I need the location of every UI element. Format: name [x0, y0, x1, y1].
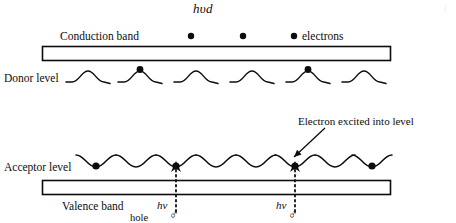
conduction-band-rect [43, 47, 391, 61]
photon-energy-label: hν [157, 200, 167, 211]
transition-arrow-head [290, 161, 300, 172]
acceptor-electron-dot [368, 162, 375, 169]
hole-symbol: ♂ [288, 208, 298, 221]
semiconductor-band-diagram: hυd ( Conduction band electrons Donor le… [0, 0, 456, 223]
title-formula: hυd [193, 2, 213, 15]
acceptor-level-label: Acceptor level [4, 162, 71, 174]
donor-level-bump [342, 71, 386, 84]
hole-label: hole [130, 213, 148, 223]
donor-level-bump [66, 71, 110, 84]
electrons-label: electrons [302, 31, 344, 43]
acceptor-electron-dot [172, 162, 179, 169]
donor-level-bump [286, 71, 330, 84]
annotation-arrow-head [294, 150, 302, 157]
acceptor-level-dip [352, 155, 392, 167]
conduction-electron-dot [188, 33, 194, 39]
valence-band-rect [43, 181, 391, 195]
hole-symbol: ♂ [169, 208, 179, 221]
conduction-electron-dot [291, 33, 297, 39]
conduction-electron-dot [240, 33, 246, 39]
acceptor-level-dip [236, 155, 276, 167]
acceptor-electron-dot [291, 162, 298, 169]
annotation-arrow-shaft [294, 128, 325, 157]
donor-electron-dot [137, 66, 144, 73]
donor-level-bump [118, 71, 162, 84]
donor-level-label: Donor level [4, 73, 59, 85]
acceptor-level-dip [156, 155, 196, 167]
conduction-band-label: Conduction band [60, 31, 139, 43]
valence-band-label: Valence band [62, 201, 124, 213]
acceptor-level-dip [116, 155, 156, 167]
electron-excited-annotation: Electron excited into level [298, 116, 414, 127]
donor-level-bump [230, 71, 274, 84]
donor-level-bump [174, 71, 218, 84]
donor-electron-dot [305, 66, 312, 73]
acceptor-level-dip [196, 155, 236, 167]
acceptor-level-dip [275, 155, 315, 167]
photon-energy-label: hν [276, 200, 286, 211]
acceptor-level-dip [76, 155, 116, 167]
acceptor-level-dip [315, 155, 355, 167]
scan-artifact: ( [444, 3, 447, 13]
transition-arrow-head [171, 161, 181, 172]
acceptor-electron-dot [92, 162, 99, 169]
